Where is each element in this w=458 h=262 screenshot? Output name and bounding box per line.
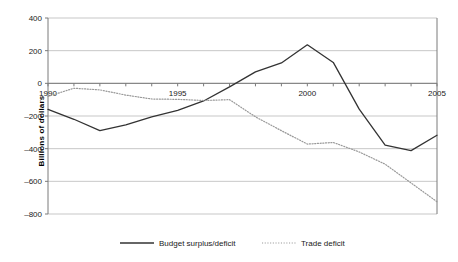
x-tick-labels: 1990199520002005 (39, 83, 446, 98)
line-chart: 4002000–200–400–600–8001990199520002005B… (0, 0, 458, 262)
y-tick-label: –800 (24, 210, 42, 219)
y-tick-label: –600 (24, 177, 42, 186)
x-tick-label: 1990 (39, 89, 57, 98)
y-tick-labels: 4002000–200–400–600–800 (24, 14, 48, 219)
series-line (48, 88, 437, 202)
legend-label: Budget surplus/deficit (159, 239, 236, 248)
y-tick-label: –200 (24, 112, 42, 121)
chart-container: Billions of dollars 4002000–200–400–600–… (0, 0, 458, 262)
gridlines (48, 18, 437, 214)
y-tick-label: –400 (24, 145, 42, 154)
x-tick-label: 1995 (169, 89, 187, 98)
data-series (48, 45, 437, 202)
y-tick-label: 0 (38, 79, 43, 88)
legend: Budget surplus/deficitTrade deficit (120, 239, 346, 248)
x-tick-label: 2005 (428, 89, 446, 98)
series-line (48, 45, 437, 151)
y-tick-label: 400 (29, 14, 43, 23)
x-tick-label: 2000 (298, 89, 316, 98)
y-tick-label: 200 (29, 47, 43, 56)
legend-label: Trade deficit (301, 239, 346, 248)
